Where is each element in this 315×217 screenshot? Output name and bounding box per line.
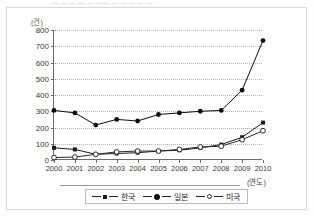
data-point-미국-2009 bbox=[240, 137, 245, 142]
chart-screenshot: ㅡ ㅡ ㅡ ㅡ ㅡ ㅡㅡ ㅡ ㅡ ㅡ ㅡ ㅡ (건) 0100200300400… bbox=[0, 0, 315, 217]
x-axis-tick-label: 2008 bbox=[213, 164, 230, 173]
legend-marker-open-circle-icon bbox=[207, 194, 212, 199]
data-point-미국-2003 bbox=[114, 149, 119, 154]
data-point-일본-2010 bbox=[261, 38, 266, 43]
data-series-layer bbox=[54, 30, 263, 160]
legend-line-icon bbox=[214, 196, 223, 197]
data-point-일본-2008 bbox=[219, 108, 224, 113]
y-axis-tick-label: 200 bbox=[25, 123, 49, 132]
data-point-일본-2002 bbox=[93, 123, 98, 128]
legend-marker-filled-circle-icon bbox=[154, 194, 160, 200]
data-point-미국-2006 bbox=[177, 147, 182, 152]
x-axis-tick-mark bbox=[200, 160, 201, 163]
data-point-미국-2001 bbox=[73, 155, 78, 160]
y-axis-tick-label: 700 bbox=[25, 42, 49, 51]
data-point-일본-2000 bbox=[52, 108, 57, 113]
data-point-미국-2008 bbox=[219, 144, 224, 149]
y-axis-tick-label: 600 bbox=[25, 58, 49, 67]
x-axis-tick-mark bbox=[96, 160, 97, 163]
data-point-미국-2007 bbox=[198, 145, 203, 150]
legend-marker-filled-square-icon bbox=[103, 195, 107, 199]
x-axis-tick-label: 2000 bbox=[46, 164, 63, 173]
y-axis-tick-label: 800 bbox=[25, 26, 49, 35]
legend-label: 미국 bbox=[225, 191, 241, 202]
data-point-미국-2004 bbox=[135, 149, 140, 154]
x-axis-tick-label: 2003 bbox=[108, 164, 125, 173]
x-axis-tick-mark bbox=[242, 160, 243, 163]
legend-line-icon bbox=[109, 196, 118, 197]
x-axis-tick-label: 2002 bbox=[87, 164, 104, 173]
legend-line-icon bbox=[92, 196, 101, 197]
x-axis-unit-label: (연도) bbox=[247, 176, 266, 187]
x-axis-tick-label: 2006 bbox=[171, 164, 188, 173]
legend-label: 한국 bbox=[120, 191, 136, 202]
chart-legend: 한국일본미국 bbox=[85, 189, 248, 204]
x-axis-tick-mark bbox=[75, 160, 76, 163]
data-point-일본-2004 bbox=[135, 119, 140, 124]
legend-item-미국[interactable]: 미국 bbox=[196, 191, 241, 202]
top-text-remnant: ㅡ ㅡ ㅡ ㅡ ㅡ ㅡㅡ ㅡ ㅡ ㅡ ㅡ ㅡ bbox=[52, 0, 282, 5]
legend-item-일본[interactable]: 일본 bbox=[143, 191, 189, 202]
x-axis-tick-mark bbox=[117, 160, 118, 163]
x-axis-tick-label: 2007 bbox=[192, 164, 209, 173]
x-axis-tick-label: 2010 bbox=[255, 164, 272, 173]
data-point-미국-2010 bbox=[261, 128, 266, 133]
x-axis-tick-mark bbox=[159, 160, 160, 163]
x-axis-tick-label: 2001 bbox=[67, 164, 84, 173]
data-point-한국-2010 bbox=[261, 121, 265, 125]
y-axis-tick-label: 300 bbox=[25, 107, 49, 116]
legend-line-icon bbox=[143, 196, 152, 197]
data-point-미국-2000 bbox=[52, 155, 57, 160]
x-axis-tick-label: 2005 bbox=[150, 164, 167, 173]
data-point-일본-2006 bbox=[177, 110, 182, 115]
data-point-한국-2001 bbox=[73, 147, 77, 151]
data-point-한국-2000 bbox=[52, 146, 56, 150]
data-point-일본-2007 bbox=[198, 109, 203, 114]
y-axis-tick-label: 100 bbox=[25, 139, 49, 148]
x-axis-underline bbox=[60, 185, 240, 186]
data-point-미국-2002 bbox=[93, 152, 98, 157]
data-point-일본-2001 bbox=[73, 110, 78, 115]
x-axis-tick-label: 2009 bbox=[234, 164, 251, 173]
data-point-일본-2003 bbox=[114, 117, 119, 122]
y-axis-tick-label: 400 bbox=[25, 91, 49, 100]
x-axis-tick-mark bbox=[221, 160, 222, 163]
data-point-미국-2005 bbox=[156, 149, 161, 154]
x-axis-tick-mark bbox=[179, 160, 180, 163]
x-axis-tick-mark bbox=[263, 160, 264, 163]
data-point-일본-2009 bbox=[240, 88, 245, 93]
data-point-일본-2005 bbox=[156, 112, 161, 117]
legend-label: 일본 bbox=[173, 191, 189, 202]
legend-line-icon bbox=[196, 196, 205, 197]
y-axis-tick-label: 500 bbox=[25, 74, 49, 83]
legend-item-한국[interactable]: 한국 bbox=[92, 191, 136, 202]
plot-area: 0100200300400500600700800 20002001200220… bbox=[53, 30, 262, 160]
legend-line-icon bbox=[162, 196, 171, 197]
x-axis-tick-label: 2004 bbox=[129, 164, 146, 173]
x-axis-tick-mark bbox=[138, 160, 139, 163]
